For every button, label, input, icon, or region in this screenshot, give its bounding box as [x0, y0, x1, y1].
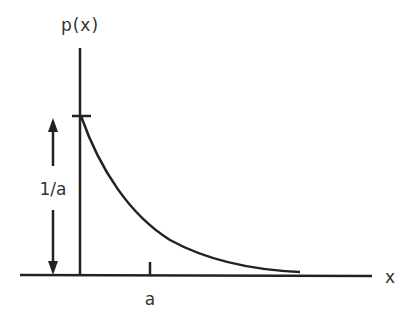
y-axis-label: p(x)	[61, 15, 99, 35]
x-axis	[20, 275, 372, 276]
diagram-canvas: p(x) 1/a a x	[0, 0, 409, 333]
exponential-curve	[81, 116, 300, 272]
arrow-up-icon	[48, 118, 58, 132]
x-axis-label: x	[385, 267, 395, 287]
arrow-down-icon	[48, 261, 58, 275]
x-tick-label: a	[145, 289, 155, 309]
height-label: 1/a	[40, 179, 67, 199]
